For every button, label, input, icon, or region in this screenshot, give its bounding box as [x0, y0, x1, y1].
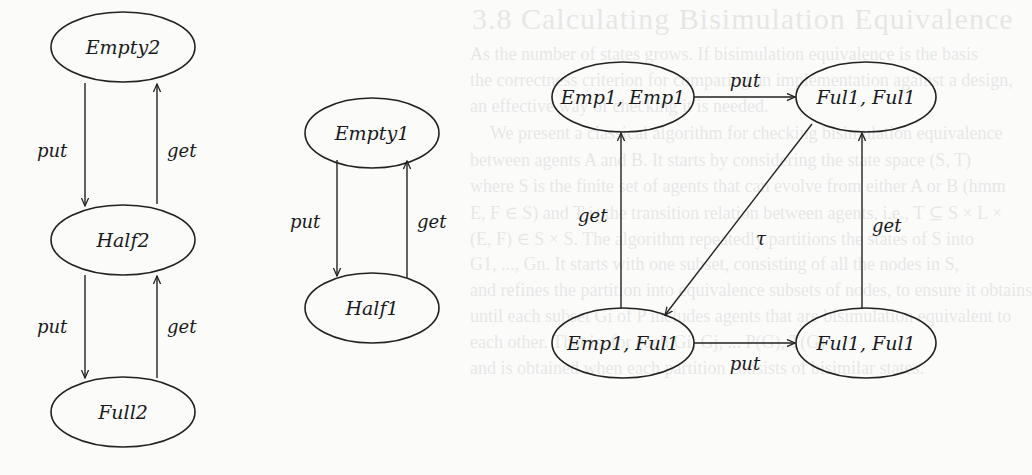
edge-label-put: put: [730, 353, 761, 374]
graph-two-place-buffer: Empty2 Half2 Full2 put get put get: [37, 12, 197, 447]
node-label: Full2: [97, 401, 148, 423]
edge-emp1ful1-ful1ful1-put[interactable]: put: [694, 343, 795, 374]
node-full2[interactable]: Full2: [51, 377, 195, 447]
edge-label-put: put: [730, 70, 761, 91]
node-label: Ful1, Ful1: [815, 332, 915, 354]
node-label: Empty1: [334, 122, 410, 144]
edge-ful1ful1-ful1ful1-get[interactable]: get: [862, 133, 902, 308]
edge-label-get: get: [167, 140, 197, 161]
node-half2[interactable]: Half2: [51, 205, 195, 275]
node-ful1-ful1-top[interactable]: Ful1, Ful1: [796, 62, 936, 132]
node-half1[interactable]: Half1: [305, 273, 439, 343]
node-label: Emp1, Emp1: [560, 86, 685, 108]
node-label: Empty2: [85, 36, 161, 58]
node-label: Half2: [95, 229, 149, 251]
edge-ful1ful1-emp1ful1-tau[interactable]: τ: [665, 124, 812, 315]
graph-composed-buffer: Emp1, Emp1 Ful1, Ful1 Emp1, Ful1 Ful1, F…: [552, 62, 936, 378]
edge-label-get: get: [167, 316, 197, 337]
node-ful1-ful1-bottom[interactable]: Ful1, Ful1: [796, 308, 936, 378]
edge-label-put: put: [37, 140, 68, 161]
node-empty1[interactable]: Empty1: [305, 98, 439, 168]
edge-label-get: get: [417, 211, 447, 232]
node-emp1-ful1[interactable]: Emp1, Ful1: [552, 308, 694, 378]
graph-one-place-buffer: Empty1 Half1 put get: [290, 98, 447, 343]
edge-empty1-half1-put[interactable]: put: [290, 160, 337, 276]
edge-emp1emp1-ful1ful1-put[interactable]: put: [694, 70, 795, 97]
edge-label-tau: τ: [756, 228, 767, 249]
edge-label-put: put: [37, 316, 68, 337]
node-empty2[interactable]: Empty2: [51, 12, 195, 82]
edge-label-get: get: [578, 205, 608, 226]
edge-half2-empty2-get[interactable]: get: [157, 84, 197, 204]
edge-half1-empty1-get[interactable]: get: [407, 161, 447, 278]
edge-emp1ful1-emp1emp1-get[interactable]: get: [578, 133, 621, 308]
node-label: Ful1, Ful1: [815, 86, 915, 108]
node-label: Half1: [344, 297, 398, 319]
node-label: Emp1, Ful1: [566, 332, 679, 354]
edge-full2-half2-get[interactable]: get: [157, 276, 197, 378]
edge-label-put: put: [290, 211, 321, 232]
edge-label-get: get: [872, 215, 902, 236]
node-emp1-emp1[interactable]: Emp1, Emp1: [552, 62, 694, 132]
edge-empty2-half2-put[interactable]: put: [37, 83, 85, 206]
edge-half2-full2-put[interactable]: put: [37, 275, 85, 378]
